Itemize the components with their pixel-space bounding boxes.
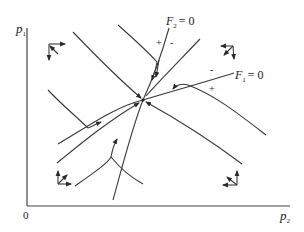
f2-label: F2= 0	[165, 14, 195, 30]
trajectory-bottom-right	[146, 102, 242, 164]
trajectory-bottom-tail	[111, 139, 117, 157]
origin-label: 0	[23, 209, 29, 221]
region-arrows-bottom-right	[223, 171, 237, 185]
y-axis-label: p1	[15, 21, 27, 38]
f1-label: F1= 0	[234, 68, 264, 84]
trajectory-top	[118, 25, 157, 62]
region-arrows-bottom-left	[58, 171, 71, 184]
trajectory-top-left	[73, 32, 141, 98]
equilibrium-point	[141, 98, 144, 101]
region-arrows-top-right	[221, 46, 234, 59]
f2-minus-sign: -	[170, 37, 173, 48]
trajectory-top-tail	[152, 62, 157, 80]
trajectory-right	[188, 85, 266, 135]
trajectory-right-tail	[173, 84, 188, 89]
x-axis-label: p2	[279, 208, 291, 225]
trajectory-lower-left	[57, 103, 139, 163]
f2-plus-sign: +	[156, 37, 162, 48]
f1-plus-sign: +	[209, 83, 215, 94]
trajectory-bottom-right-branch	[111, 157, 143, 184]
region-arrows-top-left	[49, 44, 65, 60]
f1-curve	[58, 73, 234, 144]
trajectory-bottom	[75, 157, 111, 186]
trajectory-left	[48, 90, 88, 128]
f1-minus-sign: -	[210, 64, 213, 75]
phase-diagram: p1 0 p2 F2= 0 + - F1= 0 - +	[0, 0, 304, 232]
axes	[27, 28, 290, 206]
